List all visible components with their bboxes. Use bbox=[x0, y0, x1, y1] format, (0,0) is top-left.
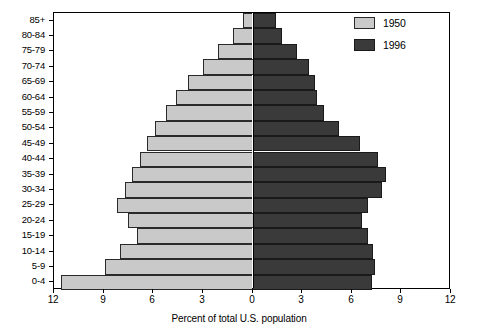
bar-1950-70-74 bbox=[203, 59, 253, 74]
bar-1996-15-19 bbox=[253, 228, 369, 243]
bar-1950-10-14 bbox=[120, 244, 252, 259]
bar-row bbox=[54, 105, 449, 120]
bar-1950-40-44 bbox=[140, 152, 252, 167]
x-tick-mark bbox=[351, 289, 352, 293]
y-tick-label-65-69: 65-69 bbox=[22, 76, 45, 86]
bar-1996-75-79 bbox=[253, 44, 298, 59]
x-tick-label-6: 6 bbox=[336, 294, 366, 306]
y-tick-label-30-34: 30-34 bbox=[22, 184, 45, 194]
bar-1950-45-49 bbox=[147, 136, 253, 151]
x-tick-label-0: 12 bbox=[38, 294, 68, 306]
x-tick-label-2: 6 bbox=[137, 294, 167, 306]
x-tick-mark bbox=[400, 289, 401, 293]
bar-1950-20-24 bbox=[128, 213, 252, 228]
y-tick-label-20-24: 20-24 bbox=[22, 215, 45, 225]
bar-row bbox=[54, 182, 449, 197]
bar-1996-65-69 bbox=[253, 75, 316, 90]
bar-row bbox=[54, 198, 449, 213]
y-tick-label-15-19: 15-19 bbox=[22, 230, 45, 240]
bar-row bbox=[54, 121, 449, 136]
bar-1996-25-29 bbox=[253, 198, 369, 213]
bar-1996-0-4 bbox=[253, 275, 372, 290]
legend-label-1996: 1996 bbox=[383, 39, 406, 51]
x-axis-title: Percent of total U.S. population bbox=[0, 313, 478, 324]
bar-1950-5-9 bbox=[105, 259, 252, 274]
x-tick-mark bbox=[152, 289, 153, 293]
bar-1996-10-14 bbox=[253, 244, 374, 259]
bar-1950-60-64 bbox=[176, 90, 252, 105]
x-tick-mark bbox=[252, 289, 253, 293]
bar-1996-60-64 bbox=[253, 90, 318, 105]
y-tick-label-60-64: 60-64 bbox=[22, 92, 45, 102]
legend-item-1950: 1950 bbox=[354, 16, 406, 29]
bar-1996-40-44 bbox=[253, 152, 379, 167]
bar-1950-0-4 bbox=[61, 275, 253, 290]
bar-1950-25-29 bbox=[117, 198, 253, 213]
bar-1996-45-49 bbox=[253, 136, 361, 151]
bar-1950-75-79 bbox=[218, 44, 253, 59]
bar-1996-30-34 bbox=[253, 182, 382, 197]
bar-1996-70-74 bbox=[253, 59, 309, 74]
x-tick-mark bbox=[301, 289, 302, 293]
bar-1996-55-59 bbox=[253, 105, 324, 120]
bar-row bbox=[54, 259, 449, 274]
bar-1950-80-84 bbox=[233, 28, 253, 43]
bar-1950-55-59 bbox=[166, 105, 252, 120]
x-tick-label-4: 0 bbox=[237, 294, 267, 306]
bar-row bbox=[54, 90, 449, 105]
y-axis: 0-45-910-1415-1920-2425-2930-3435-3940-4… bbox=[0, 0, 53, 335]
legend-label-1950: 1950 bbox=[383, 17, 406, 29]
y-tick-label-55-59: 55-59 bbox=[22, 107, 45, 117]
y-tick-label-70-74: 70-74 bbox=[22, 61, 45, 71]
y-tick-label-75-79: 75-79 bbox=[22, 45, 45, 55]
bar-1950-35-39 bbox=[132, 167, 253, 182]
bar-1996-35-39 bbox=[253, 167, 387, 182]
y-tick-label-5-9: 5-9 bbox=[32, 261, 45, 271]
zero-axis-line bbox=[253, 13, 254, 288]
bar-row bbox=[54, 244, 449, 259]
x-tick-mark bbox=[53, 289, 54, 293]
bar-row bbox=[54, 152, 449, 167]
bar-1950-85+ bbox=[243, 13, 253, 28]
x-tick-label-1: 9 bbox=[88, 294, 118, 306]
y-tick-label-80-84: 80-84 bbox=[22, 30, 45, 40]
x-tick-label-8: 12 bbox=[435, 294, 465, 306]
y-tick-label-35-39: 35-39 bbox=[22, 169, 45, 179]
y-tick-label-0-4: 0-4 bbox=[32, 276, 45, 286]
legend-swatch-1950 bbox=[354, 17, 375, 29]
bar-1996-50-54 bbox=[253, 121, 339, 136]
bar-row bbox=[54, 75, 449, 90]
bar-row bbox=[54, 167, 449, 182]
y-tick-label-45-49: 45-49 bbox=[22, 138, 45, 148]
x-tick-label-7: 9 bbox=[385, 294, 415, 306]
x-tick-label-3: 3 bbox=[187, 294, 217, 306]
bar-1950-65-69 bbox=[188, 75, 253, 90]
bar-1996-5-9 bbox=[253, 259, 375, 274]
bar-1996-20-24 bbox=[253, 213, 362, 228]
y-tick-label-85+: 85+ bbox=[29, 15, 45, 25]
population-pyramid-chart: 0-45-910-1415-1920-2425-2930-3435-3940-4… bbox=[0, 0, 478, 335]
bar-row bbox=[54, 213, 449, 228]
y-tick-label-25-29: 25-29 bbox=[22, 199, 45, 209]
y-tick-label-40-44: 40-44 bbox=[22, 153, 45, 163]
legend-item-1996: 1996 bbox=[354, 38, 406, 51]
bar-1950-30-34 bbox=[125, 182, 252, 197]
x-tick-label-5: 3 bbox=[286, 294, 316, 306]
bar-row bbox=[54, 275, 449, 290]
x-tick-mark bbox=[450, 289, 451, 293]
y-tick-label-50-54: 50-54 bbox=[22, 122, 45, 132]
x-tick-mark bbox=[202, 289, 203, 293]
y-tick-label-10-14: 10-14 bbox=[22, 246, 45, 256]
x-tick-mark bbox=[103, 289, 104, 293]
bar-1996-80-84 bbox=[253, 28, 283, 43]
bar-1950-50-54 bbox=[155, 121, 253, 136]
bar-1950-15-19 bbox=[137, 228, 253, 243]
bar-1996-85+ bbox=[253, 13, 276, 28]
bar-row bbox=[54, 228, 449, 243]
legend-swatch-1996 bbox=[354, 39, 375, 51]
bar-row bbox=[54, 136, 449, 151]
bar-row bbox=[54, 59, 449, 74]
legend: 1950 1996 bbox=[354, 16, 406, 60]
